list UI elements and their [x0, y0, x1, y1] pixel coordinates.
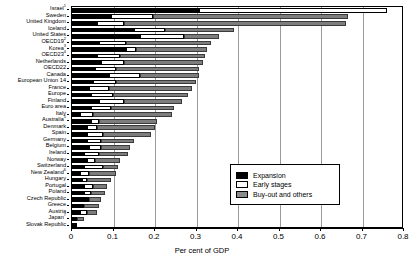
bar-row	[72, 191, 105, 196]
bar-row	[72, 73, 199, 78]
bar-segment-early	[95, 67, 116, 72]
legend-item-buyout: Buy-out and others	[236, 191, 334, 198]
category-label-greece: Greece	[48, 202, 66, 208]
bar-segment-early	[126, 47, 136, 52]
category-tick	[67, 114, 70, 115]
bar-segment-buyout	[99, 152, 128, 157]
bar-row	[72, 184, 107, 189]
bar-row	[72, 132, 151, 137]
bar-segment-expansion	[72, 139, 87, 144]
bar-segment-buyout	[89, 171, 116, 176]
bar-segment-early	[87, 139, 102, 144]
category-tick	[67, 166, 70, 167]
bar-segment-expansion	[72, 210, 80, 215]
category-tick	[67, 42, 70, 43]
bar-segment-buyout	[124, 99, 182, 104]
bar-segment-early	[80, 171, 88, 176]
bar-segment-buyout	[103, 132, 151, 137]
bar-segment-expansion	[72, 184, 84, 189]
x-tick-0.7	[362, 228, 363, 231]
bar-segment-buyout	[120, 54, 205, 59]
category-tick	[67, 218, 70, 219]
bar-segment-expansion	[72, 178, 82, 183]
bar-segment-expansion	[72, 86, 89, 91]
x-tick-label-0.3: 0.3	[190, 232, 201, 241]
legend-label-early-stages: Early stages	[253, 181, 292, 188]
category-tick	[67, 186, 70, 187]
x-tick-label-0.4: 0.4	[231, 232, 242, 241]
bar-row	[72, 125, 155, 130]
bar-segment-early	[91, 106, 112, 111]
bar-segment-expansion	[72, 204, 82, 209]
bar-segment-early	[199, 8, 388, 13]
bar-segment-early	[134, 28, 165, 33]
category-tick	[67, 173, 70, 174]
bar-row	[72, 171, 116, 176]
bar-row	[72, 8, 387, 13]
bar-segment-buyout	[93, 112, 172, 117]
bar-segment-expansion	[72, 28, 134, 33]
bar-segment-early	[87, 132, 104, 137]
bar-segment-buyout	[124, 60, 203, 65]
bar-row	[72, 28, 234, 33]
bar-segment-buyout	[113, 93, 188, 98]
bar-segment-buyout	[87, 210, 97, 215]
category-tick	[67, 101, 70, 102]
bar-segment-buyout	[140, 73, 198, 78]
x-tick-0.6	[320, 228, 321, 231]
bar-segment-early	[84, 165, 103, 170]
bar-row	[72, 67, 199, 72]
category-tick	[67, 153, 70, 154]
category-tick	[67, 133, 70, 134]
bar-segment-buyout	[116, 80, 197, 85]
x-tick-0.8	[403, 228, 404, 231]
bar-segment-expansion	[72, 197, 87, 202]
legend-label-expansion: Expansion	[253, 172, 286, 179]
bar-row	[72, 204, 99, 209]
bar-segment-expansion	[72, 106, 91, 111]
bar-segment-expansion	[72, 125, 87, 130]
bar-segment-expansion	[72, 47, 126, 52]
bar-segment-early	[111, 14, 153, 19]
bar-segment-early	[99, 41, 126, 46]
category-label-oecd23: OECD234	[41, 52, 66, 58]
category-tick	[67, 62, 70, 63]
bar-segment-early	[97, 54, 120, 59]
bar-segment-expansion	[72, 165, 84, 170]
bar-segment-buyout	[101, 139, 134, 144]
bar-segment-expansion	[72, 171, 80, 176]
bar-segment-buyout	[136, 47, 207, 52]
bar-row	[72, 14, 348, 19]
bar-segment-buyout	[124, 21, 346, 26]
bar-segment-expansion	[72, 191, 84, 196]
category-label-slovak-republic: Slovak Republic	[26, 222, 66, 228]
bar-segment-expansion	[72, 67, 95, 72]
category-tick	[67, 55, 70, 56]
bar-row	[72, 21, 346, 26]
x-tick-0.4	[237, 228, 238, 231]
bar-segment-buyout	[77, 217, 83, 222]
category-label-oecd19: OECD192	[41, 39, 66, 45]
legend-item-early-stages: Early stages	[236, 181, 334, 188]
x-tick-0	[71, 228, 72, 231]
category-tick	[67, 146, 70, 147]
x-tick-0.2	[154, 228, 155, 231]
bar-row	[72, 210, 97, 215]
x-tick-label-0.1: 0.1	[107, 232, 118, 241]
bar-segment-buyout	[91, 191, 106, 196]
x-tick-label-0.2: 0.2	[148, 232, 159, 241]
bar-segment-expansion	[72, 41, 99, 46]
category-tick	[67, 120, 70, 121]
bar-segment-buyout	[84, 204, 99, 209]
category-tick	[67, 225, 70, 226]
bar-segment-buyout	[103, 165, 118, 170]
bar-segment-expansion	[72, 158, 87, 163]
category-tick	[67, 192, 70, 193]
bar-row	[72, 139, 134, 144]
legend-label-buyout: Buy-out and others	[253, 191, 312, 198]
bar-segment-expansion	[72, 73, 109, 78]
category-tick	[67, 94, 70, 95]
bar-row	[72, 41, 211, 46]
category-tick	[67, 88, 70, 89]
x-tick-label-0.5: 0.5	[273, 232, 284, 241]
